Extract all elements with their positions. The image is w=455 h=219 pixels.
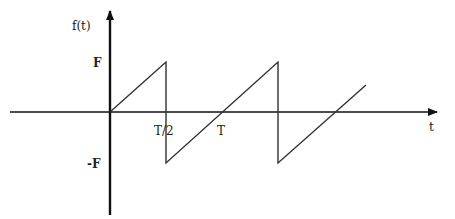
tick-label-T-half: T/2 [154, 124, 174, 138]
tick-label-F: F [93, 56, 102, 70]
x-axis-label: t [429, 120, 434, 134]
tick-label-neg-F: -F [87, 157, 101, 171]
tick-label-T: T [217, 124, 225, 138]
y-axis-label: f(t) [72, 19, 91, 33]
sawtooth-diagram: f(t) t F -F T/2 T [0, 0, 455, 219]
